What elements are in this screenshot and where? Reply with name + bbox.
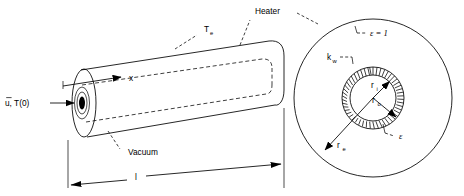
eps1-tick [355,26,357,33]
figure-root: x T e Heater Vacuum u, T(0) [0,0,464,196]
radius-outer-label: r [372,95,375,105]
radius-inner-subscript: i [377,86,378,92]
radius-enclosure-annotation: r e [325,98,373,152]
vacuum-label: Vacuum [128,147,158,157]
vacuum-annotation: Vacuum [108,131,158,157]
eps-leader [385,133,394,136]
radius-enclosure-subscript: e [343,146,346,152]
header-leader-right [297,13,318,24]
heater-leader-left [240,20,250,45]
wall-conductivity-annotation: k w [327,52,353,64]
wall-temperature-annotation: T e [175,24,213,49]
emissivity-wall-label: ε [399,131,403,141]
vacuum-leader [108,131,120,149]
radius-outer-subscript: o [378,101,381,107]
wall-conductivity-subscript: w [332,58,338,64]
heater-label: Heater [255,6,280,16]
x-axis-label: x [129,73,134,83]
inlet-annotation: u, T(0) [5,98,74,108]
inlet-label: u, T(0) [5,98,30,108]
radius-inner-label: r [371,80,374,90]
end-face-bore [79,97,85,110]
radius-enclosure-label: r [337,140,340,150]
te-leader [175,35,197,49]
wall-temperature-subscript: e [210,30,213,36]
wall-temperature-label: T [204,24,209,34]
eps-tick [383,124,385,133]
cylinder-body [72,41,284,137]
cross-section-assembly: r i r o r e ε = 1 k [294,19,452,177]
dim-arrow-right [146,164,281,176]
left-end-annulus [75,87,90,119]
dim-arrow-left [71,180,127,185]
kw-tick [352,57,353,64]
wall-conductivity-label: k [327,52,332,62]
heater-annotation: Heater [240,6,318,45]
emissivity-enclosure-label: ε = 1 [370,28,388,38]
emissivity-enclosure-annotation: ε = 1 [355,26,388,38]
cylinder-inner-bore-hidden [82,59,272,122]
cylinder-assembly: x T e Heater Vacuum u, T(0) [5,6,318,188]
length-label: l [135,172,137,182]
radius-enclosure-arrow [325,98,373,150]
schematic-svg: x T e Heater Vacuum u, T(0) [0,0,464,196]
